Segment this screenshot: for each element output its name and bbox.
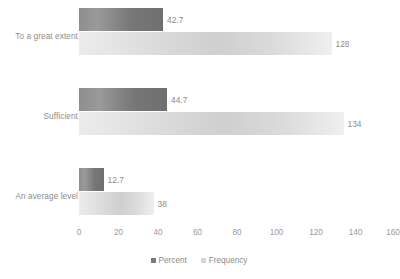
x-tick-label: 160 <box>386 228 400 237</box>
category-label: To a great extent <box>0 32 78 41</box>
bar-value-percent: 12.7 <box>108 175 124 185</box>
x-axis: 0 20 40 60 80 100 120 140 160 <box>0 228 398 246</box>
bar-percent[interactable] <box>79 88 167 111</box>
bar-value-percent: 44.7 <box>171 95 187 105</box>
category-label: Sufficient <box>0 112 78 121</box>
x-tick-label: 0 <box>77 228 82 237</box>
bar-frequency[interactable] <box>79 192 154 215</box>
bar-frequency[interactable] <box>79 112 344 135</box>
category-label: An average level <box>0 192 78 201</box>
bar-percent[interactable] <box>79 8 163 31</box>
x-tick-label: 120 <box>309 228 323 237</box>
legend-swatch-icon <box>201 258 206 263</box>
x-tick-label: 40 <box>153 228 162 237</box>
legend: Percent Frequency <box>0 256 398 265</box>
legend-label: Percent <box>159 256 187 265</box>
x-tick-label: 140 <box>349 228 363 237</box>
x-tick-label: 80 <box>232 228 241 237</box>
bar-percent[interactable] <box>79 168 104 191</box>
legend-item-frequency[interactable]: Frequency <box>201 256 248 265</box>
legend-swatch-icon <box>151 258 156 263</box>
legend-item-percent[interactable]: Percent <box>151 256 187 265</box>
bar-value-frequency: 134 <box>348 119 362 129</box>
plot-area: To a great extent 42.7 128 Sufficient 44… <box>0 0 398 228</box>
x-tick-label: 100 <box>270 228 284 237</box>
x-tick-label: 60 <box>193 228 202 237</box>
bar-value-frequency: 38 <box>158 199 167 209</box>
legend-label: Frequency <box>209 256 248 265</box>
x-tick-label: 20 <box>114 228 123 237</box>
bar-value-frequency: 128 <box>336 39 350 49</box>
bar-frequency[interactable] <box>79 32 332 55</box>
bar-value-percent: 42.7 <box>167 15 183 25</box>
